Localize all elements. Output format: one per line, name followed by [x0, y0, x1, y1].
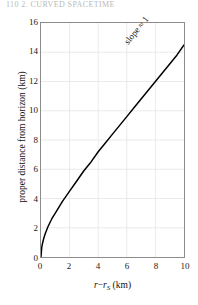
- y-axis-title: proper distance from horizon (km): [17, 37, 27, 237]
- x-tick-6: 6: [118, 262, 136, 271]
- x-axis-tick-labels: 0246810: [40, 262, 185, 276]
- x-tick-4: 4: [89, 262, 107, 271]
- figure-proper-distance-vs-r: 0246810121416 0246810 proper distance fr…: [0, 0, 198, 305]
- x-axis-units: (km): [113, 280, 131, 290]
- x-tick-10: 10: [176, 262, 194, 271]
- data-curve: [41, 23, 184, 257]
- y-tick-16: 16: [22, 18, 38, 27]
- x-tick-2: 2: [60, 262, 78, 271]
- plot-frame: [40, 22, 185, 258]
- x-tick-0: 0: [31, 262, 49, 271]
- x-axis-title: r−rS (km): [40, 280, 185, 292]
- x-tick-8: 8: [147, 262, 165, 271]
- x-axis-subscript-s: S: [107, 284, 111, 292]
